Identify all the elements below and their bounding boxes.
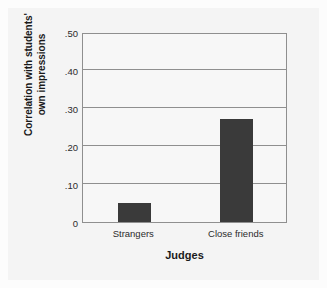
gridline — [83, 145, 286, 146]
chart-figure: Correlation with students' own impressio… — [0, 0, 327, 288]
plot-area — [82, 33, 287, 223]
y-tick-label: .10 — [52, 180, 78, 190]
y-axis-title-line-2: own impressions — [35, 0, 48, 155]
y-tick-label: .30 — [52, 104, 78, 114]
bar-strangers — [118, 203, 151, 222]
x-axis-category-labels: StrangersClose friends — [82, 228, 287, 244]
y-axis-title: Correlation with students' own impressio… — [23, 0, 48, 155]
x-category-label: Close friends — [208, 228, 263, 239]
y-axis-ticks: 0.10.20.30.40.50 — [50, 33, 78, 223]
gridline — [83, 107, 286, 108]
gridline — [83, 69, 286, 70]
bar-close-friends — [220, 119, 253, 222]
y-tick-label: .20 — [52, 142, 78, 152]
x-category-label: Strangers — [113, 228, 154, 239]
y-tick-label: 0 — [52, 218, 78, 228]
y-tick-label: .40 — [52, 66, 78, 76]
x-axis-title: Judges — [82, 249, 287, 261]
gridline — [83, 183, 286, 184]
y-tick-label: .50 — [52, 28, 78, 38]
y-axis-title-line-1: Correlation with students' — [23, 0, 36, 155]
